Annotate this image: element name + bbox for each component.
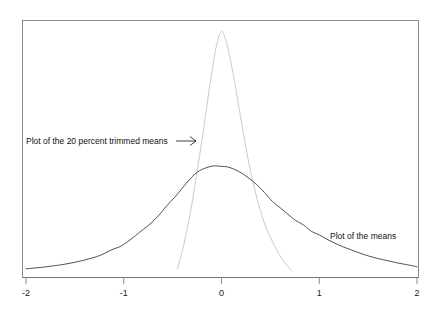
x-tick-label-2: 0 <box>219 288 224 298</box>
means-curve <box>26 166 417 269</box>
trimmed-means-annotation: Plot of the 20 percent trimmed means <box>26 136 196 146</box>
annotation-arrow-icon <box>176 137 196 146</box>
x-axis-ticks <box>26 278 417 285</box>
trimmed-means-curve <box>178 31 292 271</box>
x-tick-label-1: -1 <box>120 288 128 298</box>
x-axis-tick-labels: -2-1012 <box>22 288 420 298</box>
chart-container: -2-1012 Plot of the 20 percent trimmed m… <box>0 0 440 311</box>
trimmed-means-annotation-label: Plot of the 20 percent trimmed means <box>26 136 168 146</box>
means-annotation-label: Plot of the means <box>330 231 396 241</box>
density-plot: -2-1012 Plot of the 20 percent trimmed m… <box>0 0 440 311</box>
x-tick-label-0: -2 <box>22 288 30 298</box>
x-tick-label-4: 2 <box>414 288 419 298</box>
x-tick-label-3: 1 <box>317 288 322 298</box>
